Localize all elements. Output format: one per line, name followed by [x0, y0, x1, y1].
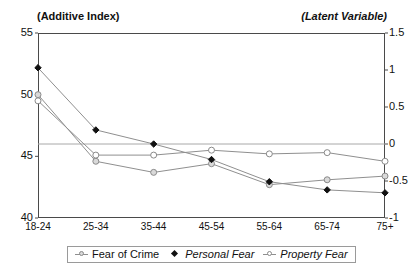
circle-open-icon — [263, 250, 276, 259]
left-axis-caption: (Additive Index) — [37, 10, 120, 22]
x-tick-65-74: 65-74 — [297, 222, 357, 232]
x-tick-25-34: 25-34 — [66, 222, 126, 232]
circle-gray-icon — [75, 250, 88, 259]
legend-label: Fear of Crime — [92, 249, 159, 260]
left-tick-50: 50 — [3, 89, 33, 100]
right-tick-1_5: 1.5 — [389, 27, 419, 38]
x-tick-35-44: 35-44 — [124, 222, 184, 232]
left-tick-55: 55 — [3, 27, 33, 38]
legend-item-fear-of-crime[interactable]: Fear of Crime — [75, 249, 159, 260]
x-tick-55-64: 55-64 — [239, 222, 299, 232]
plot-area — [38, 33, 385, 218]
legend-item-personal-fear[interactable]: Personal Fear — [168, 249, 254, 260]
legend-item-property-fear[interactable]: Property Fear — [263, 249, 347, 260]
legend-label: Property Fear — [280, 249, 347, 260]
chart-figure: (Additive Index) (Latent Variable) 55504… — [0, 0, 419, 275]
right-tick-0: 0 — [389, 138, 419, 149]
x-tick-18-24: 18-24 — [8, 222, 68, 232]
legend-label: Personal Fear — [185, 249, 254, 260]
chart-legend: Fear of CrimePersonal FearProperty Fear — [67, 246, 356, 263]
diamond-filled-icon — [168, 250, 181, 259]
left-tick-45: 45 — [3, 150, 33, 161]
right-tick-0_5: 0.5 — [389, 101, 419, 112]
x-tick-45-54: 45-54 — [182, 222, 242, 232]
right-tick--0_5: -0.5 — [389, 175, 419, 186]
right-tick-1: 1 — [389, 64, 419, 75]
right-axis-caption: (Latent Variable) — [301, 10, 387, 22]
x-tick-75+: 75+ — [355, 222, 415, 232]
